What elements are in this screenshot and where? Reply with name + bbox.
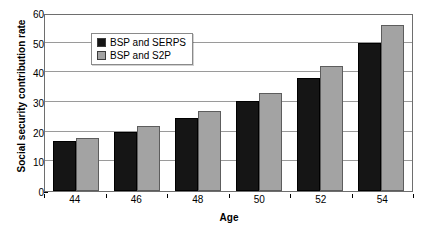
- x-axis-title: Age: [44, 212, 414, 223]
- x-tick-mark: [290, 194, 291, 198]
- bar: [175, 118, 198, 191]
- bar: [297, 78, 320, 191]
- y-tick-mark: [44, 192, 48, 193]
- plot-area: BSP and SERPS BSP and S2P: [44, 14, 413, 192]
- x-tick-mark: [106, 194, 107, 198]
- x-tick-mark: [167, 194, 168, 198]
- bar: [114, 132, 137, 191]
- legend-label: BSP and SERPS: [110, 37, 186, 48]
- y-axis-ticks: 0102030405060: [0, 14, 44, 192]
- x-tick-label: 48: [170, 194, 226, 210]
- bar-chart-figure: Social security contribution rate 010203…: [0, 0, 424, 234]
- bar: [259, 93, 282, 191]
- bar-group: [236, 15, 282, 191]
- legend-item: BSP and S2P: [97, 50, 186, 61]
- x-tick-mark: [229, 194, 230, 198]
- bar: [236, 101, 259, 191]
- y-tick-label: 0: [18, 187, 44, 198]
- bar: [137, 126, 160, 191]
- bar: [320, 66, 343, 191]
- x-axis-ticks: 444648505254: [44, 194, 413, 210]
- y-tick-label: 60: [18, 9, 44, 20]
- y-tick-label: 20: [18, 127, 44, 138]
- x-tick-label: 46: [108, 194, 164, 210]
- bar: [76, 138, 99, 191]
- y-tick-label: 10: [18, 157, 44, 168]
- legend-swatch-icon: [97, 51, 106, 60]
- bar: [381, 25, 404, 191]
- bar: [358, 43, 381, 191]
- x-tick-mark: [44, 194, 45, 198]
- x-tick-label: 52: [293, 194, 349, 210]
- legend-item: BSP and SERPS: [97, 37, 186, 48]
- x-tick-mark: [352, 194, 353, 198]
- bar: [198, 111, 221, 191]
- x-tick-label: 54: [354, 194, 410, 210]
- x-tick-mark: [413, 194, 414, 198]
- y-tick-label: 40: [18, 68, 44, 79]
- legend-label: BSP and S2P: [110, 50, 171, 61]
- bar-group: [358, 15, 404, 191]
- y-tick-label: 30: [18, 98, 44, 109]
- y-tick-label: 50: [18, 38, 44, 49]
- x-tick-label: 50: [231, 194, 287, 210]
- bar: [53, 141, 76, 191]
- x-tick-label: 44: [47, 194, 103, 210]
- legend-swatch-icon: [97, 38, 106, 47]
- bar-group: [297, 15, 343, 191]
- legend: BSP and SERPS BSP and S2P: [91, 33, 193, 65]
